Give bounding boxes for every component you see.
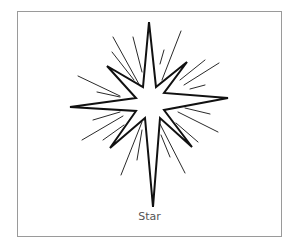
figure-caption: Star	[0, 210, 299, 223]
star-icon	[0, 0, 299, 244]
star-outline	[70, 22, 228, 207]
